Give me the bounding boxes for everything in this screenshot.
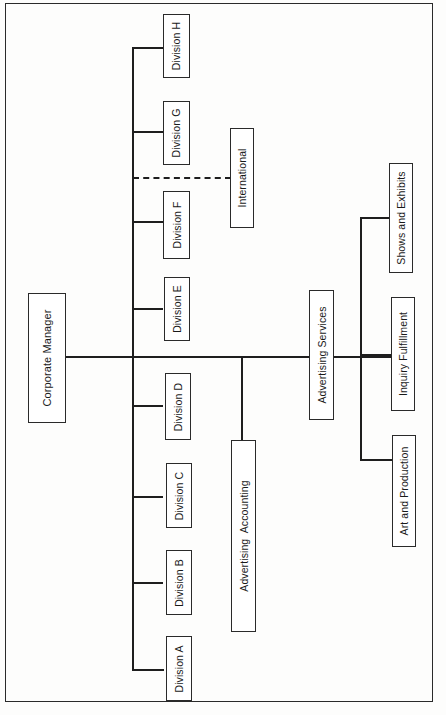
dotted-line-international [133, 177, 231, 179]
node-label: Advertising Services [316, 306, 328, 403]
connector-division-a [132, 669, 164, 671]
node-label: Division B [173, 559, 185, 607]
node-division-h: Division H [163, 14, 190, 78]
node-advertising-accounting: Advertising Accounting [231, 440, 256, 632]
node-label: Division E [171, 285, 183, 333]
advertising-services-spine [360, 217, 362, 461]
node-label: Division C [173, 471, 185, 519]
node-international: International [230, 128, 254, 228]
node-inquiry-fulfillment: Inquiry Fulfillment [391, 297, 415, 411]
node-division-c: Division C [166, 463, 192, 528]
connector-division-d [132, 405, 163, 407]
connector-division-c [132, 496, 163, 498]
connector-division-f [132, 221, 163, 223]
connector-division-h [132, 47, 163, 49]
node-division-d: Division D [165, 373, 191, 440]
node-art-and-production: Art and Production [392, 435, 416, 547]
org-chart: Corporate Manager Division H Division G … [0, 0, 446, 715]
node-label: International [236, 148, 248, 207]
node-label: Division F [171, 201, 183, 248]
node-division-a: Division A [166, 636, 192, 701]
division-spine [132, 47, 134, 671]
main-horizontal-connector [65, 356, 391, 358]
node-label: Art and Production [398, 447, 410, 536]
connector-shows-and-exhibits [360, 217, 390, 219]
node-shows-and-exhibits: Shows and Exhibits [389, 163, 413, 273]
node-corporate-manager: Corporate Manager [28, 293, 66, 423]
node-division-g: Division G [163, 101, 190, 165]
node-division-b: Division B [166, 550, 192, 615]
node-label: Division D [172, 382, 184, 430]
node-label: Advertising Accounting [238, 480, 250, 591]
node-label: Shows and Exhibits [395, 171, 407, 264]
node-label: Division H [171, 22, 183, 70]
node-label: Division A [173, 645, 185, 692]
node-label: Inquiry Fulfillment [397, 312, 409, 396]
connector-division-e [132, 308, 163, 310]
connector-division-b [132, 582, 163, 584]
node-division-e: Division E [164, 277, 190, 341]
connector-inquiry-fulfillment [360, 354, 391, 356]
node-advertising-services: Advertising Services [309, 290, 334, 420]
node-label: Corporate Manager [41, 309, 53, 406]
chart-frame [5, 3, 433, 702]
connector-division-g [132, 131, 163, 133]
node-label: Division G [171, 109, 183, 158]
connector-advertising-accounting [241, 357, 243, 441]
connector-art-and-production [360, 459, 392, 461]
node-division-f: Division F [163, 191, 190, 259]
